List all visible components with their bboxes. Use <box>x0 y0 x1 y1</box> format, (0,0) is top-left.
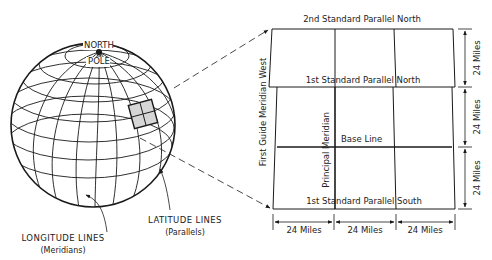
base-line-label: Base Line <box>341 134 382 144</box>
latitude-lines-sublabel: (Parallels) <box>165 228 205 237</box>
east-range-line-lower <box>452 87 455 209</box>
longitude-leader-arrow <box>86 195 107 232</box>
first-standard-parallel-south-label: 1st Standard Parallel South <box>306 196 422 206</box>
principal-meridian-label: Principal Meridian <box>321 112 331 188</box>
north-label: NORTH <box>84 40 114 50</box>
horizontal-dimension-label-2: 24 Miles <box>347 225 383 235</box>
first-guide-meridian-west-label: First Guide Meridian West <box>258 57 268 166</box>
vertical-dimensions <box>458 29 472 209</box>
projection-line-top <box>174 30 268 88</box>
survey-grid <box>269 29 455 209</box>
first-standard-parallel-north-label: 1st Standard Parallel North <box>306 75 421 85</box>
highlighted-township-icon <box>128 99 157 128</box>
latitude-leader-arrow <box>160 169 170 210</box>
east-range-line-upper <box>453 29 455 87</box>
second-standard-parallel-north-label: 2nd Standard Parallel North <box>303 14 421 24</box>
longitude-lines-label: LONGITUDE LINES <box>22 233 105 243</box>
guide-meridian-upper <box>269 29 272 87</box>
vertical-dimension-label-1: 24 Miles <box>472 40 482 76</box>
vertical-dimension-label-3: 24 Miles <box>472 160 482 196</box>
first-guide-meridian-west <box>273 87 277 209</box>
longitude-lines-sublabel: (Meridians) <box>40 246 85 255</box>
horizontal-dimension-label-3: 24 Miles <box>407 225 443 235</box>
pole-label: POLE <box>88 56 110 66</box>
range-line-lower-2 <box>393 87 396 209</box>
horizontal-dimension-label-1: 24 Miles <box>286 225 322 235</box>
survey-diagram: NORTH POLE LATITUDE LINES (Parallels) LO… <box>0 0 492 260</box>
longitude-lines <box>33 52 177 212</box>
vertical-dimension-label-2: 24 Miles <box>472 99 482 135</box>
latitude-lines-label: LATITUDE LINES <box>148 215 222 225</box>
